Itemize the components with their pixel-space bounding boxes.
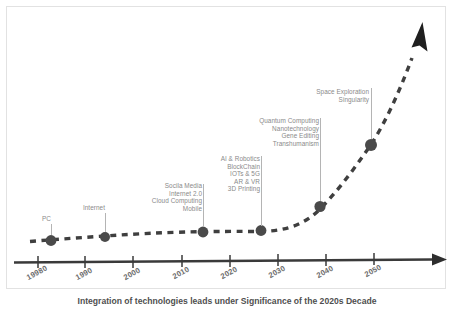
annotation-pc: PC	[10, 215, 54, 223]
data-point-social	[198, 227, 209, 238]
annotation-ai-era: AI & Robotics BlockChain IOTs & 5G AR & …	[196, 155, 263, 193]
chart-figure: PC Internet Socila Media Internet 2.0 Cl…	[0, 0, 454, 309]
annotation-internet: Internet	[60, 204, 108, 212]
x-axis-arrow-icon	[432, 254, 447, 266]
annotation-label: Singularity	[297, 96, 369, 104]
annotation-label: AR & VR	[196, 178, 260, 186]
annotation-label: Socila Media	[130, 182, 202, 190]
annotation-label: Space Exploration	[297, 88, 369, 96]
data-point-internet	[100, 232, 110, 242]
annotation-label: Cloud Computing	[130, 197, 202, 205]
annotation-label: Quantum Computing	[240, 117, 319, 125]
data-point-singularity	[365, 139, 377, 151]
x-axis-line	[14, 260, 432, 263]
annotation-singularity-era: Space Exploration Singularity	[297, 88, 372, 103]
annotation-label: Nanotechnology	[240, 125, 319, 133]
annotation-label: IOTs & 5G	[196, 170, 260, 178]
annotation-label: AI & Robotics	[196, 155, 260, 163]
annotation-label: Internet 2.0	[130, 190, 202, 198]
annotation-label: Internet	[60, 204, 105, 212]
annotation-label: Gene Editing	[240, 132, 319, 140]
annotation-label: Mobile	[130, 205, 202, 213]
annotation-label: PC	[10, 215, 51, 223]
data-point-ai	[256, 225, 267, 236]
data-point-quantum	[314, 201, 325, 212]
trend-arrow-icon	[412, 22, 428, 52]
annotation-label: Transhumanism	[240, 140, 319, 148]
data-point-pc	[46, 235, 57, 246]
annotation-label: 3D Printing	[196, 185, 260, 193]
trend-curve	[30, 58, 412, 242]
annotation-label: BlockChain	[196, 163, 260, 171]
annotation-social-era: Socila Media Internet 2.0 Cloud Computin…	[130, 182, 205, 212]
figure-caption: Integration of technologies leads under …	[0, 296, 454, 306]
annotation-quantum-era: Quantum Computing Nanotechnology Gene Ed…	[240, 117, 322, 147]
